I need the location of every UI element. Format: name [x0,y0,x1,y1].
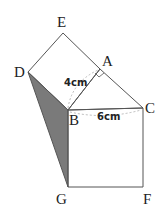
label-c: C [145,100,155,116]
measurement-bc: 6cm [97,111,120,122]
measurement-ab: 4cm [64,77,87,88]
triangle-abc [68,69,143,110]
label-a: A [102,53,113,69]
label-e: E [57,14,66,30]
shaded-triangle-dbg [28,72,68,187]
label-g: G [56,191,67,207]
label-d: D [14,64,25,80]
geometry-figure: E A D B C G F 4cm 6cm [0,0,165,218]
dashed-arc-ab [68,70,98,108]
label-b: B [69,112,79,128]
label-f: F [143,191,151,207]
